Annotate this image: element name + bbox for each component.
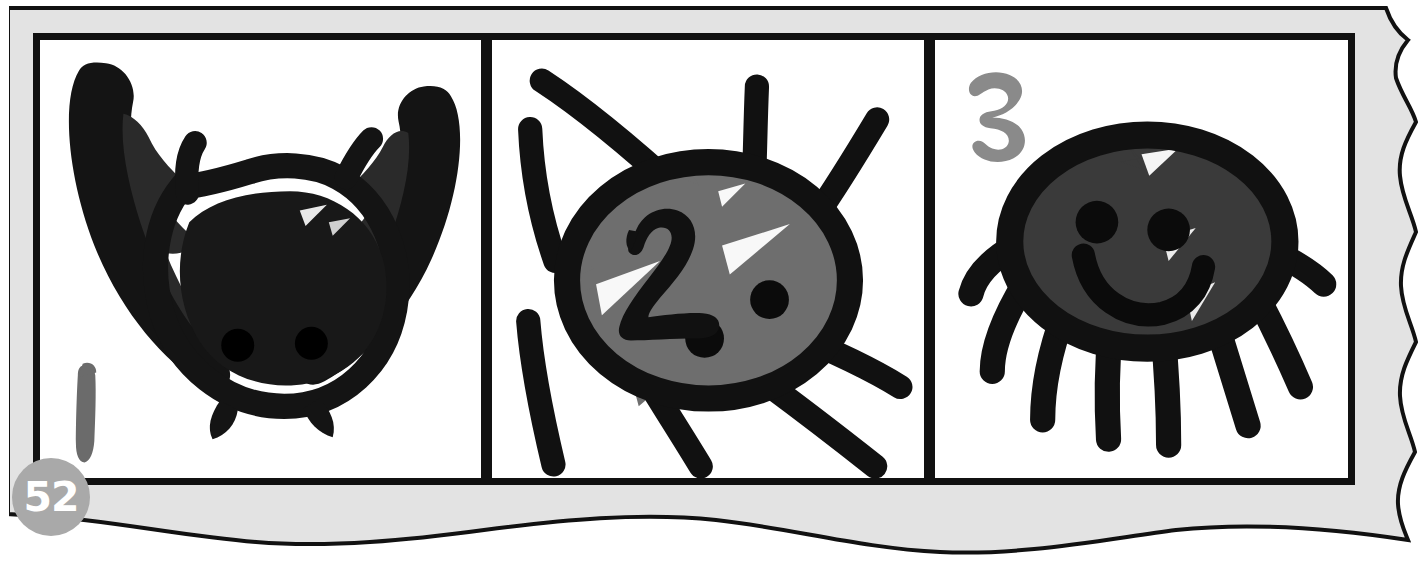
comic-panel-1 xyxy=(33,33,488,485)
spider-right-eye xyxy=(750,280,789,319)
smiling-creature-artwork xyxy=(935,40,1348,478)
smiling-left-eye xyxy=(1076,201,1119,244)
comic-page: 52 xyxy=(0,0,1418,570)
smiling-right-eye xyxy=(1147,209,1190,252)
step-label-1 xyxy=(76,363,96,463)
paper-left-margin xyxy=(0,0,9,570)
page-number-badge: 52 xyxy=(12,458,90,536)
page-number-text: 52 xyxy=(23,477,78,518)
spider-leg-2 xyxy=(530,129,555,261)
step-label-3 xyxy=(969,72,1025,162)
comic-panel-3 xyxy=(931,33,1355,485)
spider-leg-3 xyxy=(528,321,553,464)
bat-left-eye xyxy=(221,329,254,362)
bat-right-eye xyxy=(295,327,328,360)
bat-left-ear xyxy=(187,143,195,193)
spider-creature-artwork xyxy=(492,40,924,478)
bat-creature-artwork xyxy=(40,40,481,478)
comic-panel-2 xyxy=(488,33,931,485)
